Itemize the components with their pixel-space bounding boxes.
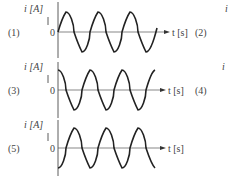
arrow-right-icon (160, 88, 166, 92)
x-axis-label: t [s] (168, 85, 184, 96)
panel-3: (3) i [A] 0 t [s] (4) i (8, 61, 225, 118)
origin-label: 0 (50, 27, 55, 38)
arrow-right-icon (160, 146, 166, 150)
origin-label: 0 (50, 143, 55, 154)
origin-label: 0 (50, 85, 55, 96)
panel-label: (1) (8, 27, 20, 39)
y-axis-label: i [A] (24, 119, 43, 130)
x-axis-label: t [s] (172, 27, 188, 38)
panel-5: (5) i [A] 0 t [s] (8, 119, 184, 176)
panel-label: (3) (8, 85, 20, 97)
panel-label: (5) (8, 143, 20, 155)
panel-label: (2) (195, 27, 207, 39)
y-axis-label: i (222, 61, 225, 72)
panel-label: (4) (195, 85, 207, 97)
y-axis-label: i (225, 3, 228, 14)
y-axis-label: i [A] (24, 3, 43, 14)
panel-1: (1) i [A] 0 t [s] (2) i (8, 2, 228, 58)
arrow-right-icon (164, 30, 170, 34)
x-axis-label: t [s] (168, 143, 184, 154)
y-axis-label: i [A] (24, 61, 43, 72)
waveform-figure: (1) i [A] 0 t [s] (2) i (3) i [A] 0 t [s… (0, 0, 234, 181)
